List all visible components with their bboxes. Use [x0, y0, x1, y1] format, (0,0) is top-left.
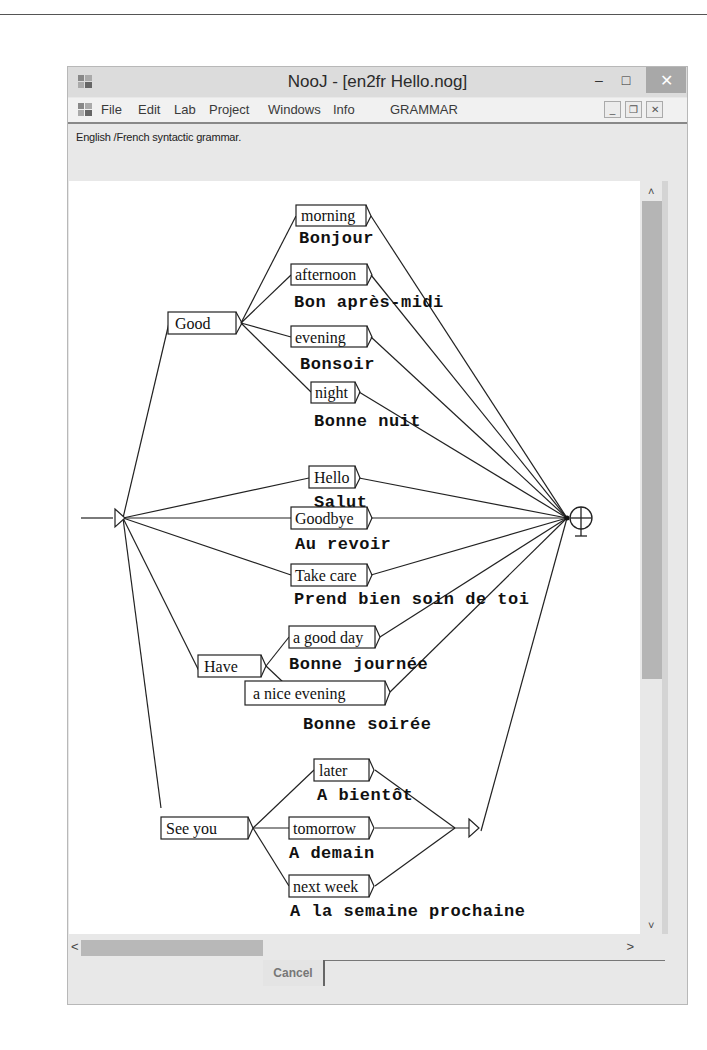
node-goodbye[interactable]: Goodbye: [291, 507, 372, 529]
scroll-left-arrow-icon[interactable]: <: [71, 939, 79, 954]
grammar-graph-canvas[interactable]: Good morning Bonjour afternoon Bon après…: [69, 181, 640, 934]
node-a-good-day[interactable]: a good day: [289, 626, 380, 648]
menu-info[interactable]: Info: [333, 102, 355, 117]
svg-text:a good day: a good day: [293, 629, 363, 647]
output-prend-bien-soin: Prend bien soin de toi: [294, 590, 529, 609]
close-button[interactable]: ✕: [646, 67, 686, 93]
output-bonne-nuit: Bonne nuit: [314, 412, 421, 431]
node-afternoon[interactable]: afternoon: [291, 264, 372, 285]
menu-project[interactable]: Project: [209, 102, 249, 117]
page-divider-rule: [0, 14, 707, 15]
node-a-nice-evening[interactable]: a nice evening: [245, 681, 390, 705]
title-bar: NooJ - [en2fr Hello.nog] – □ ✕: [68, 67, 687, 97]
node-take-care[interactable]: Take care: [291, 564, 372, 586]
node-have[interactable]: Have: [198, 655, 266, 677]
mdi-close-button[interactable]: ✕: [646, 101, 663, 118]
svg-text:next week: next week: [293, 878, 358, 895]
node-next-week[interactable]: next week: [289, 875, 374, 897]
output-bon-apres-midi: Bon après-midi: [294, 293, 444, 312]
output-bonne-journee: Bonne journée: [289, 655, 428, 674]
node-tomorrow[interactable]: tomorrow: [289, 817, 374, 839]
mdi-minimize-button[interactable]: _: [604, 101, 621, 118]
output-a-la-semaine-prochaine: A la semaine prochaine: [290, 902, 525, 921]
svg-text:morning: morning: [301, 207, 355, 225]
final-node-icon[interactable]: [570, 507, 592, 536]
horizontal-scroll-thumb[interactable]: [81, 940, 263, 956]
merge-node-icon[interactable]: [469, 819, 479, 837]
menu-file[interactable]: File: [101, 102, 122, 117]
svg-text:See you: See you: [166, 820, 217, 838]
svg-text:a nice evening: a nice evening: [253, 685, 345, 703]
svg-text:tomorrow: tomorrow: [293, 820, 357, 837]
minimize-button[interactable]: –: [588, 67, 610, 93]
document-icon[interactable]: [78, 103, 92, 116]
node-morning[interactable]: morning: [296, 205, 371, 226]
cancel-button[interactable]: Cancel: [263, 960, 325, 986]
output-a-bientot: A bientôt: [317, 786, 413, 805]
node-hello[interactable]: Hello: [309, 466, 360, 488]
svg-text:later: later: [319, 762, 348, 779]
node-evening[interactable]: evening: [291, 326, 372, 347]
svg-text:Take care: Take care: [295, 567, 357, 584]
node-night[interactable]: night: [311, 382, 360, 403]
scroll-track: [662, 181, 668, 934]
menu-grammar[interactable]: GRAMMAR: [390, 102, 458, 117]
vertical-scroll-thumb[interactable]: [642, 201, 662, 679]
node-good[interactable]: Good: [168, 312, 242, 334]
output-bonne-soiree: Bonne soirée: [303, 715, 431, 734]
output-a-demain: A demain: [289, 844, 375, 863]
menu-windows[interactable]: Windows: [268, 102, 321, 117]
svg-text:night: night: [315, 384, 348, 402]
output-au-revoir: Au revoir: [295, 535, 391, 554]
grammar-graph: Good morning Bonjour afternoon Bon après…: [69, 181, 640, 934]
output-bonjour: Bonjour: [299, 229, 374, 248]
svg-text:Goodbye: Goodbye: [295, 510, 354, 528]
svg-text:Have: Have: [204, 658, 238, 675]
menu-lab[interactable]: Lab: [174, 102, 196, 117]
nooj-window: NooJ - [en2fr Hello.nog] – □ ✕ File Edit…: [67, 66, 688, 1005]
horizontal-scrollbar[interactable]: < >: [69, 936, 640, 958]
svg-text:Good: Good: [175, 315, 211, 332]
divider: [325, 960, 665, 961]
scroll-right-arrow-icon[interactable]: >: [626, 939, 634, 954]
mdi-restore-button[interactable]: ❐: [625, 101, 642, 118]
scroll-up-arrow-icon[interactable]: ˄: [648, 185, 654, 197]
menu-bar: File Edit Lab Project Windows Info GRAMM…: [68, 98, 687, 124]
vertical-scrollbar[interactable]: ˄ ˅: [640, 181, 668, 934]
node-see-you[interactable]: See you: [161, 817, 253, 839]
menu-edit[interactable]: Edit: [138, 102, 160, 117]
scroll-down-arrow-icon[interactable]: ˅: [648, 919, 654, 931]
svg-text:Hello: Hello: [314, 469, 350, 486]
svg-text:evening: evening: [295, 329, 346, 347]
maximize-button[interactable]: □: [615, 67, 637, 93]
output-bonsoir: Bonsoir: [300, 355, 375, 374]
final-junction-dot: [565, 516, 570, 521]
svg-text:afternoon: afternoon: [295, 266, 356, 283]
grammar-description: English /French syntactic grammar.: [76, 131, 241, 143]
node-later[interactable]: later: [314, 759, 374, 781]
